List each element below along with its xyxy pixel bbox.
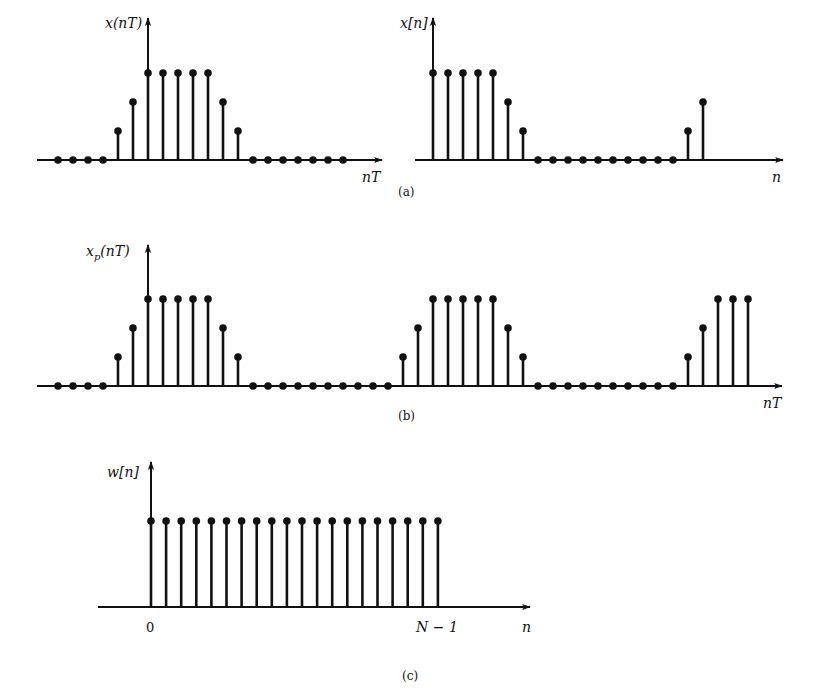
stem-marker	[129, 98, 137, 106]
stem-marker	[669, 382, 677, 390]
stem-marker	[279, 382, 287, 390]
stem-marker	[129, 324, 137, 332]
y-axis-label: x[n]	[400, 15, 428, 31]
stem-marker	[594, 156, 602, 164]
stem-marker	[309, 156, 317, 164]
stem-marker	[699, 324, 707, 332]
caption-b: (b)	[398, 409, 415, 423]
stem-marker	[219, 98, 227, 106]
stem-marker	[579, 156, 587, 164]
stem-marker	[459, 295, 467, 303]
stem-marker	[729, 295, 737, 303]
x-axis-label: nT	[362, 169, 382, 185]
x-axis-label: n	[522, 619, 531, 635]
stem-marker	[69, 382, 77, 390]
caption-c: (c)	[402, 669, 418, 683]
stem-marker	[144, 69, 152, 77]
stems	[54, 69, 347, 164]
stem-marker	[444, 295, 452, 303]
tick-label-n-minus-1: N − 1	[415, 619, 458, 635]
stem-marker	[234, 353, 242, 361]
stem-marker	[84, 382, 92, 390]
stem-marker	[264, 382, 272, 390]
stem-marker	[534, 156, 542, 164]
stem-marker	[99, 382, 107, 390]
stem-marker	[54, 382, 62, 390]
stem-marker	[294, 156, 302, 164]
y-axis-label: x(nT)	[105, 15, 142, 31]
stem-marker	[339, 382, 347, 390]
stem-marker	[639, 382, 647, 390]
stem-plot-figure: x(nT) nT x[n] n (a) xp(nT) nT (b) w[n] n…	[0, 0, 820, 697]
stem-marker	[223, 517, 231, 525]
stem-marker	[669, 156, 677, 164]
stem-marker	[159, 295, 167, 303]
stem-marker	[419, 517, 427, 525]
stem-marker	[114, 127, 122, 135]
stem-marker	[238, 517, 246, 525]
y-axis-label: xp(nT)	[86, 243, 130, 262]
stem-marker	[414, 324, 422, 332]
stem-marker	[283, 517, 291, 525]
stem-marker	[654, 156, 662, 164]
x-axis-label: n	[772, 169, 781, 185]
stem-marker	[354, 382, 362, 390]
stem-marker	[249, 382, 257, 390]
stems	[54, 295, 752, 390]
stem-marker	[504, 324, 512, 332]
stem-marker	[384, 382, 392, 390]
stem-marker	[324, 156, 332, 164]
stem-marker	[268, 517, 276, 525]
stem-marker	[624, 382, 632, 390]
stem-marker	[389, 517, 397, 525]
stem-marker	[193, 517, 201, 525]
stem-marker	[298, 517, 306, 525]
stem-marker	[429, 69, 437, 77]
stem-marker	[144, 295, 152, 303]
stem-marker	[264, 156, 272, 164]
stem-marker	[519, 353, 527, 361]
stem-marker	[84, 156, 92, 164]
stem-marker	[204, 69, 212, 77]
stem-marker	[549, 156, 557, 164]
stem-marker	[204, 295, 212, 303]
stem-marker	[564, 382, 572, 390]
stem-marker	[684, 127, 692, 135]
stem-marker	[699, 98, 707, 106]
plot-a-right: x[n] n (a)	[398, 15, 783, 199]
stems	[147, 517, 442, 607]
stem-marker	[374, 517, 382, 525]
stem-marker	[594, 382, 602, 390]
stem-marker	[714, 295, 722, 303]
stem-marker	[344, 517, 352, 525]
stem-marker	[654, 382, 662, 390]
stem-marker	[579, 382, 587, 390]
stem-marker	[639, 156, 647, 164]
stem-marker	[328, 517, 336, 525]
stem-marker	[279, 156, 287, 164]
stem-marker	[69, 156, 77, 164]
stem-marker	[159, 69, 167, 77]
stem-marker	[504, 98, 512, 106]
stem-marker	[609, 382, 617, 390]
stem-marker	[359, 517, 367, 525]
stem-marker	[162, 517, 170, 525]
stem-marker	[253, 517, 261, 525]
stem-marker	[54, 156, 62, 164]
stem-marker	[404, 517, 412, 525]
stem-marker	[744, 295, 752, 303]
stem-marker	[519, 127, 527, 135]
stem-marker	[549, 382, 557, 390]
stem-marker	[444, 69, 452, 77]
stem-marker	[177, 517, 185, 525]
plot-a-left: x(nT) nT	[37, 15, 382, 185]
stem-marker	[624, 156, 632, 164]
stem-marker	[489, 69, 497, 77]
stem-marker	[324, 382, 332, 390]
stem-marker	[369, 382, 377, 390]
stem-marker	[684, 353, 692, 361]
stem-marker	[114, 353, 122, 361]
stem-marker	[294, 382, 302, 390]
stem-marker	[609, 156, 617, 164]
plot-c: w[n] n 0 N − 1 (c)	[98, 462, 531, 683]
